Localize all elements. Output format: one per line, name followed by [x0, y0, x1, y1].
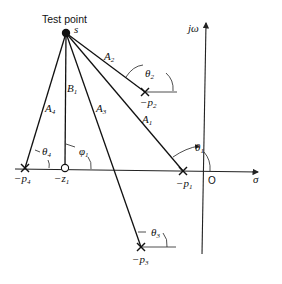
vector-a2 [66, 33, 145, 92]
real-axis-label: σ [253, 173, 259, 185]
imaginary-axis [202, 23, 206, 254]
theta3-arc-right [163, 233, 167, 247]
vector-a3 [66, 33, 141, 247]
vector-a1-label: A1 [141, 113, 152, 127]
vector-b1-label: B1 [67, 82, 77, 96]
phi1-arc [66, 144, 75, 147]
theta2-arc-right [166, 73, 173, 91]
imag-axis-label: jω [186, 22, 199, 34]
real-axis [15, 169, 258, 172]
zero-z1-marker [61, 164, 68, 171]
theta2-arc [126, 65, 143, 77]
zero-z1-label: −z1 [54, 172, 69, 186]
pole-p4-label: −p4 [14, 172, 31, 186]
theta2-label: θ2 [145, 67, 154, 81]
theta1-label: θ1 [195, 141, 204, 155]
test-point-title: Test point [42, 13, 87, 25]
theta4-arc [35, 150, 40, 152]
vector-a3-label: A3 [95, 102, 107, 116]
pole-p3-label: −p3 [132, 253, 149, 267]
theta3-label: θ3 [151, 226, 160, 240]
test-point-marker [62, 29, 70, 37]
theta4-arc-right [48, 160, 49, 168]
vector-b1 [65, 33, 66, 164]
test-point-label: s [74, 23, 78, 35]
theta1-arc-right [204, 152, 210, 171]
pole-p1-label: −p1 [176, 177, 192, 191]
pole-p4-marker [21, 164, 29, 172]
s-plane-diagram: jω σ O Test point s −p1 −p2 −p3 −p4 −z1 … [0, 0, 282, 284]
vector-a2-label: A2 [103, 50, 115, 64]
pole-p2-label: −p2 [140, 96, 157, 110]
origin-label: O [208, 175, 216, 186]
vector-a4-label: A4 [44, 102, 56, 116]
theta4-label: θ4 [42, 145, 51, 159]
phi1-label: φ1 [79, 145, 89, 159]
